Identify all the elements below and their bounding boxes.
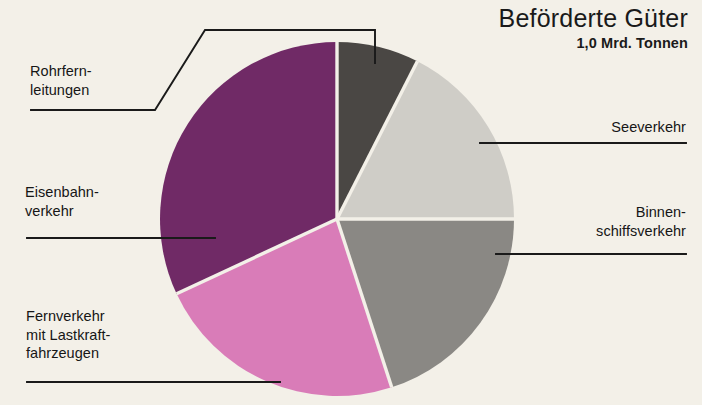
callout-line-1: Binnen- (596, 203, 686, 222)
callout-label-fernverkehr: Fernverkehr mit Lastkraft- fahrzeugen (26, 307, 111, 363)
chart-canvas: Beförderte Güter 1,0 Mrd. Tonnen Rohrfer… (0, 0, 702, 405)
chart-subtitle: 1,0 Mrd. Tonnen (499, 35, 688, 51)
callout-label-binnenschiffsverkehr: Binnen- schiffsverkehr (596, 203, 686, 240)
callout-line-1: Eisenbahn- (25, 183, 99, 202)
callout-label-rohrfernleitungen: Rohrfern- leitungen (30, 62, 92, 99)
callout-line-2: schiffsverkehr (596, 222, 686, 241)
callout-line-2: leitungen (30, 81, 92, 100)
callout-line-2: verkehr (25, 202, 99, 221)
callout-line-2: mit Lastkraft- (26, 326, 111, 345)
callout-line-3: fahrzeugen (26, 344, 111, 363)
callout-line-1: Seeverkehr (611, 118, 686, 137)
callout-label-eisenbahnverkehr: Eisenbahn- verkehr (25, 183, 99, 220)
title-block: Beförderte Güter 1,0 Mrd. Tonnen (499, 4, 688, 51)
callout-label-seeverkehr: Seeverkehr (611, 118, 686, 137)
callout-line-1: Rohrfern- (30, 62, 92, 81)
chart-title: Beförderte Güter (499, 4, 688, 32)
callout-line-1: Fernverkehr (26, 307, 111, 326)
